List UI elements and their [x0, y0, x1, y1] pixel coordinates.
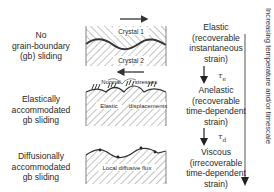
response-viscous: Viscous (irrecoverable time-dependent st… [178, 147, 254, 189]
displacements-label: displacements [128, 101, 168, 112]
mechanism-diffusional-sliding: Diffusionally accommodated gb sliding [0, 151, 82, 183]
elastic-label: Elastic [96, 101, 122, 112]
response-anelastic: Anelastic (recoverable time-dependent st… [178, 85, 254, 127]
axis-label: Increasing temperature and/or timescale [264, 8, 273, 144]
tau-e-label: τe [218, 71, 226, 82]
crystal-1-label: Crystal 1 [114, 27, 148, 38]
crystal-2-label: Crystal 2 [114, 56, 148, 67]
response-elastic: Elastic (recoverable instantaneous strai… [178, 22, 254, 64]
stresses-label: stresses [128, 77, 164, 88]
diffusive-flux-label: Local diffusive flux [96, 163, 158, 174]
mechanism-no-sliding: No grain-boundary (gb) sliding [0, 30, 82, 62]
normal-label: Normal [96, 77, 126, 88]
tau-d-label: τd [218, 132, 226, 143]
mechanism-elastic-sliding: Elastically accommodated gb sliding [0, 94, 82, 126]
